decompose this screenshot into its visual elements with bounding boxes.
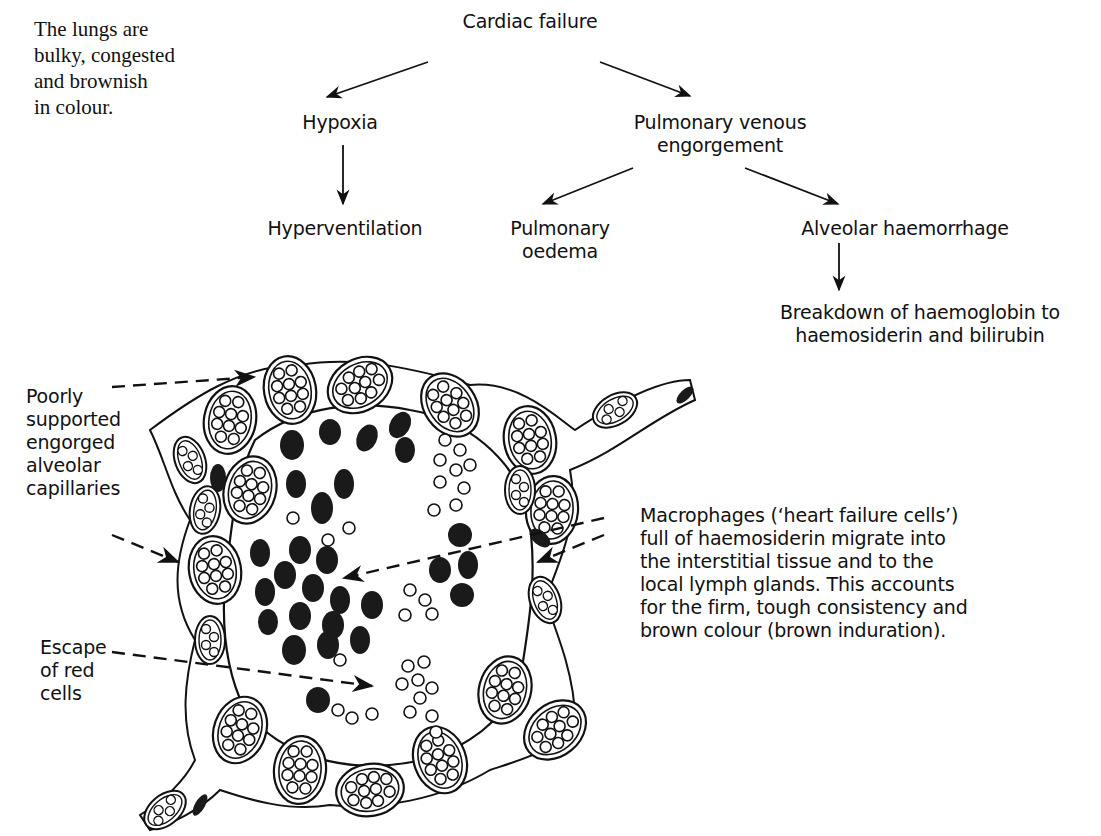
diagram-graphics [0,0,1101,836]
flowchart-arrows [327,62,839,290]
alveolus-illustration [137,345,696,836]
